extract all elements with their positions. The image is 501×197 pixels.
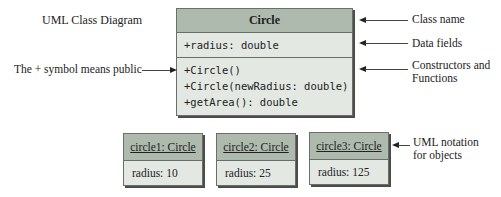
object-box-circle2: circle2: Circle radius: 25	[216, 133, 296, 186]
arrow-line	[398, 145, 410, 146]
annotation-uml-objects-line2: for objects	[413, 149, 479, 162]
annotation-public-symbol: The + symbol means public	[14, 63, 142, 76]
annotation-class-name: Class name	[412, 13, 465, 26]
class-name: Circle	[177, 9, 352, 33]
class-methods: +Circle() +Circle(newRadius: double) +ge…	[177, 58, 352, 115]
arrow-line	[365, 43, 408, 44]
annotation-constructors-line2: Functions	[412, 72, 490, 85]
annotation-constructors-line1: Constructors and	[412, 59, 490, 72]
object-name: circle1: Circle	[124, 134, 202, 161]
arrow-line	[142, 70, 172, 71]
object-name: circle3: Circle	[310, 133, 388, 160]
annotation-uml-objects: UML notation for objects	[413, 136, 479, 162]
annotation-uml-objects-line1: UML notation	[413, 136, 479, 149]
object-name: circle2: Circle	[217, 134, 295, 161]
object-box-circle1: circle1: Circle radius: 10	[123, 133, 203, 186]
object-field: radius: 10	[124, 161, 202, 185]
object-field: radius: 125	[310, 160, 388, 184]
annotation-constructors: Constructors and Functions	[412, 59, 490, 85]
object-field: radius: 25	[217, 161, 295, 185]
arrow-line	[365, 20, 408, 21]
method-constructor-default: +Circle()	[184, 62, 352, 78]
arrow-head-icon	[170, 67, 177, 73]
diagram-title: UML Class Diagram	[42, 14, 142, 27]
class-field: +radius: double	[177, 33, 352, 58]
object-box-circle3: circle3: Circle radius: 125	[309, 132, 389, 185]
annotation-data-fields: Data fields	[412, 37, 462, 50]
arrow-line	[365, 69, 408, 70]
method-constructor-radius: +Circle(newRadius: double)	[184, 78, 352, 94]
class-box-circle: Circle +radius: double +Circle() +Circle…	[176, 8, 353, 116]
method-get-area: +getArea(): double	[184, 94, 352, 110]
